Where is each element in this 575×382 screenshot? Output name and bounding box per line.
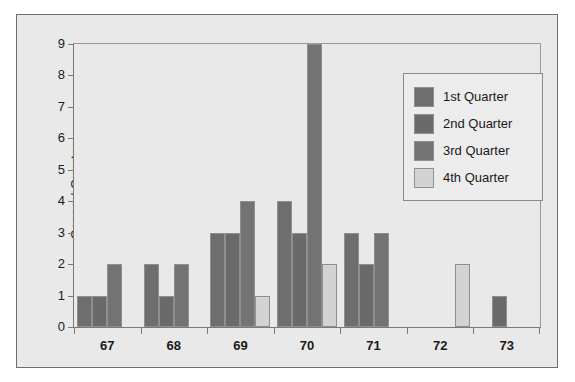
bar (359, 264, 374, 327)
y-tick-mark (68, 264, 74, 265)
bar (210, 233, 225, 327)
y-tick-mark (68, 296, 74, 297)
x-tick-mark (207, 327, 208, 334)
chart-legend: 1st Quarter2nd Quarter3rd Quarter4th Qua… (403, 73, 543, 201)
bar (277, 201, 292, 327)
bar (292, 233, 307, 327)
legend-swatch-icon (414, 114, 434, 134)
bar (107, 264, 122, 327)
y-tick-mark (68, 44, 74, 45)
legend-item: 4th Quarter (414, 164, 532, 191)
bar (307, 44, 322, 327)
legend-swatch-icon (414, 141, 434, 161)
legend-item-label: 3rd Quarter (443, 143, 509, 158)
bar (240, 201, 255, 327)
bar (77, 296, 92, 327)
bar (455, 264, 470, 327)
x-tick-mark (74, 327, 75, 334)
legend-item-label: 4th Quarter (443, 170, 509, 185)
y-tick-mark (68, 75, 74, 76)
x-tick-label: 69 (233, 338, 247, 353)
x-tick-label: 67 (100, 338, 114, 353)
bar (344, 233, 359, 327)
y-tick-mark (68, 138, 74, 139)
legend-item: 2nd Quarter (414, 110, 532, 137)
x-tick-mark (141, 327, 142, 334)
legend-item: 3rd Quarter (414, 137, 532, 164)
x-tick-label: 68 (167, 338, 181, 353)
legend-item: 1st Quarter (414, 83, 532, 110)
bar (492, 296, 507, 327)
x-tick-mark (274, 327, 275, 334)
legend-swatch-icon (414, 87, 434, 107)
x-tick-mark (407, 327, 408, 334)
x-tick-mark (473, 327, 474, 334)
y-tick-mark (68, 107, 74, 108)
bar (322, 264, 337, 327)
x-tick-mark (340, 327, 341, 334)
bar (225, 233, 240, 327)
bar (174, 264, 189, 327)
legend-swatch-icon (414, 168, 434, 188)
bar (159, 296, 174, 327)
y-tick-mark (68, 170, 74, 171)
y-tick-mark (68, 233, 74, 234)
chart-figure: Cases / Quarter 0123456789 6768697071727… (16, 14, 558, 368)
x-tick-label: 71 (366, 338, 380, 353)
legend-item-label: 2nd Quarter (443, 116, 512, 131)
x-tick-label: 70 (300, 338, 314, 353)
bar (144, 264, 159, 327)
x-tick-mark (539, 327, 540, 334)
x-tick-label: 73 (499, 338, 513, 353)
legend-item-label: 1st Quarter (443, 89, 508, 104)
bar (255, 296, 270, 327)
y-tick-mark (68, 201, 74, 202)
bar (92, 296, 107, 327)
bar (374, 233, 389, 327)
x-tick-label: 72 (433, 338, 447, 353)
